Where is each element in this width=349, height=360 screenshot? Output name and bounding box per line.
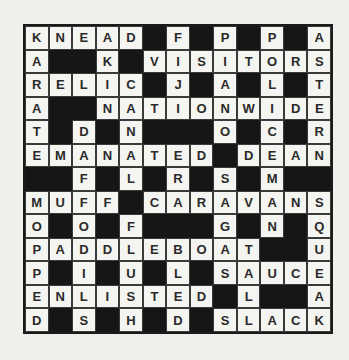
letter-cell[interactable]: A bbox=[25, 97, 49, 121]
letter-cell[interactable]: I bbox=[96, 73, 120, 97]
letter-cell[interactable]: A bbox=[213, 238, 237, 262]
letter-cell[interactable]: A bbox=[25, 50, 49, 74]
letter-cell[interactable]: U bbox=[119, 261, 143, 285]
letter-cell[interactable]: L bbox=[72, 73, 96, 97]
letter-cell[interactable]: M bbox=[25, 191, 49, 215]
letter-cell[interactable]: A bbox=[119, 97, 143, 121]
letter-cell[interactable]: S bbox=[213, 261, 237, 285]
letter-cell[interactable]: A bbox=[284, 144, 308, 168]
letter-cell[interactable]: E bbox=[49, 73, 73, 97]
letter-cell[interactable]: C bbox=[284, 308, 308, 332]
letter-cell[interactable]: T bbox=[307, 73, 331, 97]
letter-cell[interactable]: C bbox=[260, 120, 284, 144]
letter-cell[interactable]: U bbox=[49, 191, 73, 215]
letter-cell[interactable]: E bbox=[307, 97, 331, 121]
letter-cell[interactable]: E bbox=[307, 261, 331, 285]
letter-cell[interactable]: R bbox=[190, 191, 214, 215]
letter-cell[interactable]: R bbox=[307, 120, 331, 144]
letter-cell[interactable]: A bbox=[307, 26, 331, 50]
letter-cell[interactable]: P bbox=[260, 26, 284, 50]
letter-cell[interactable]: T bbox=[237, 238, 261, 262]
letter-cell[interactable]: P bbox=[25, 261, 49, 285]
letter-cell[interactable]: L bbox=[166, 261, 190, 285]
letter-cell[interactable]: F bbox=[119, 214, 143, 238]
letter-cell[interactable]: N bbox=[260, 214, 284, 238]
letter-cell[interactable]: P bbox=[25, 238, 49, 262]
letter-cell[interactable]: N bbox=[284, 191, 308, 215]
letter-cell[interactable]: A bbox=[260, 308, 284, 332]
letter-cell[interactable]: L bbox=[72, 285, 96, 309]
letter-cell[interactable]: R bbox=[284, 50, 308, 74]
letter-cell[interactable]: H bbox=[119, 308, 143, 332]
letter-cell[interactable]: N bbox=[96, 97, 120, 121]
letter-cell[interactable]: E bbox=[72, 26, 96, 50]
letter-cell[interactable]: M bbox=[260, 167, 284, 191]
letter-cell[interactable]: O bbox=[72, 214, 96, 238]
letter-cell[interactable]: S bbox=[190, 50, 214, 74]
letter-cell[interactable]: F bbox=[72, 191, 96, 215]
letter-cell[interactable]: D bbox=[72, 238, 96, 262]
letter-cell[interactable]: N bbox=[49, 26, 73, 50]
letter-cell[interactable]: A bbox=[237, 261, 261, 285]
letter-cell[interactable]: D bbox=[119, 26, 143, 50]
letter-cell[interactable]: L bbox=[237, 285, 261, 309]
letter-cell[interactable]: A bbox=[307, 285, 331, 309]
letter-cell[interactable]: A bbox=[213, 73, 237, 97]
letter-cell[interactable]: D bbox=[237, 144, 261, 168]
letter-cell[interactable]: S bbox=[72, 308, 96, 332]
letter-cell[interactable]: O bbox=[190, 238, 214, 262]
letter-cell[interactable]: K bbox=[96, 50, 120, 74]
letter-cell[interactable]: O bbox=[213, 120, 237, 144]
letter-cell[interactable]: O bbox=[260, 50, 284, 74]
letter-cell[interactable]: A bbox=[72, 144, 96, 168]
letter-cell[interactable]: N bbox=[119, 120, 143, 144]
letter-cell[interactable]: A bbox=[119, 144, 143, 168]
letter-cell[interactable]: S bbox=[119, 285, 143, 309]
letter-cell[interactable]: C bbox=[143, 191, 167, 215]
letter-cell[interactable]: R bbox=[166, 167, 190, 191]
letter-cell[interactable]: P bbox=[213, 26, 237, 50]
letter-cell[interactable]: N bbox=[49, 285, 73, 309]
letter-cell[interactable]: E bbox=[166, 285, 190, 309]
letter-cell[interactable]: L bbox=[119, 167, 143, 191]
letter-cell[interactable]: V bbox=[237, 191, 261, 215]
letter-cell[interactable]: D bbox=[25, 308, 49, 332]
letter-cell[interactable]: S bbox=[213, 167, 237, 191]
letter-cell[interactable]: L bbox=[119, 238, 143, 262]
letter-cell[interactable]: I bbox=[166, 50, 190, 74]
letter-cell[interactable]: A bbox=[213, 191, 237, 215]
letter-cell[interactable]: R bbox=[25, 73, 49, 97]
letter-cell[interactable]: O bbox=[190, 97, 214, 121]
letter-cell[interactable]: S bbox=[307, 50, 331, 74]
letter-cell[interactable]: S bbox=[213, 308, 237, 332]
letter-cell[interactable]: N bbox=[307, 144, 331, 168]
letter-cell[interactable]: O bbox=[25, 214, 49, 238]
letter-cell[interactable]: J bbox=[166, 73, 190, 97]
letter-cell[interactable]: T bbox=[25, 120, 49, 144]
letter-cell[interactable]: K bbox=[307, 308, 331, 332]
letter-cell[interactable]: L bbox=[260, 73, 284, 97]
letter-cell[interactable]: F bbox=[72, 167, 96, 191]
letter-cell[interactable]: D bbox=[190, 144, 214, 168]
letter-cell[interactable]: A bbox=[260, 191, 284, 215]
letter-cell[interactable]: E bbox=[260, 144, 284, 168]
letter-cell[interactable]: B bbox=[166, 238, 190, 262]
letter-cell[interactable]: T bbox=[143, 285, 167, 309]
letter-cell[interactable]: U bbox=[260, 261, 284, 285]
letter-cell[interactable]: D bbox=[284, 97, 308, 121]
letter-cell[interactable]: W bbox=[237, 97, 261, 121]
letter-cell[interactable]: Q bbox=[307, 214, 331, 238]
letter-cell[interactable]: F bbox=[96, 191, 120, 215]
letter-cell[interactable]: I bbox=[72, 261, 96, 285]
letter-cell[interactable]: G bbox=[213, 214, 237, 238]
letter-cell[interactable]: I bbox=[260, 97, 284, 121]
letter-cell[interactable]: T bbox=[143, 144, 167, 168]
letter-cell[interactable]: T bbox=[143, 97, 167, 121]
letter-cell[interactable]: L bbox=[237, 308, 261, 332]
letter-cell[interactable]: I bbox=[96, 285, 120, 309]
letter-cell[interactable]: S bbox=[307, 191, 331, 215]
letter-cell[interactable]: K bbox=[25, 26, 49, 50]
letter-cell[interactable]: E bbox=[25, 285, 49, 309]
letter-cell[interactable]: N bbox=[213, 97, 237, 121]
letter-cell[interactable]: C bbox=[284, 261, 308, 285]
